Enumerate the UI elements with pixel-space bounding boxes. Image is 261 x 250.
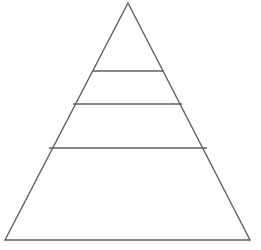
- pyramid-tier-4[interactable]: [5, 148, 250, 240]
- pyramid-tier-1[interactable]: [93, 3, 164, 71]
- pyramid-diagram-canvas: [0, 0, 261, 250]
- pyramid-tier-3[interactable]: [49, 104, 207, 148]
- pyramid-tier-2[interactable]: [73, 71, 182, 104]
- pyramid-diagram: [0, 0, 261, 250]
